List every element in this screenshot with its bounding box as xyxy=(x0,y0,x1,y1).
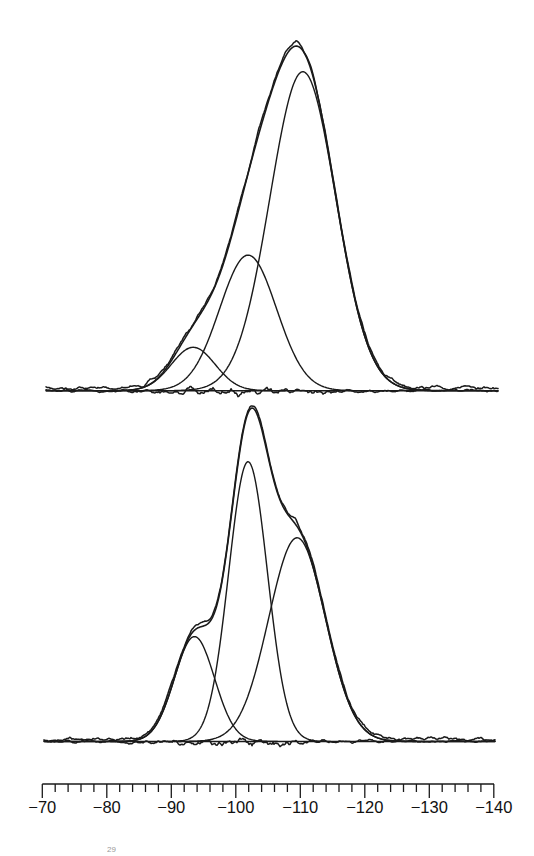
tick-label: −130 xyxy=(411,798,448,816)
axis-tick-labels: −70 −80 −90 −100 −110 −120 −130 −140 xyxy=(28,798,512,816)
tick-label: −140 xyxy=(475,798,512,816)
tick-label: −120 xyxy=(346,798,383,816)
lower-experimental-trace xyxy=(44,406,495,742)
lower-component-peak-1 xyxy=(111,637,278,742)
upper-fit-envelope xyxy=(46,46,498,391)
clipped-caption-fragment: 29 xyxy=(107,846,116,856)
chemical-shift-axis: −70 −80 −90 −100 −110 −120 −130 −140 xyxy=(28,784,512,816)
tick-label: −100 xyxy=(217,798,254,816)
upper-experimental-trace xyxy=(46,41,498,391)
tick-label: −110 xyxy=(282,798,318,816)
tick-label: −90 xyxy=(157,798,185,816)
upper-spectrum xyxy=(46,41,498,397)
lower-component-peak-2 xyxy=(167,462,329,742)
axis-ticks xyxy=(42,784,494,798)
nmr-deconvolution-figure: −70 −80 −90 −100 −110 −120 −130 −140 xyxy=(0,0,534,856)
tick-label: −70 xyxy=(28,798,56,816)
lower-component-peak-3 xyxy=(178,538,416,742)
upper-component-peak-3 xyxy=(165,72,441,391)
lower-spectrum xyxy=(44,406,495,747)
tick-label: −80 xyxy=(93,798,121,816)
